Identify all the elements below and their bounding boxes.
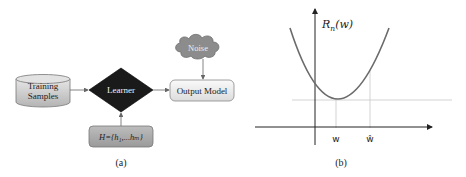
- hypothesis-label: H={h₁,...hₘ}: [98, 132, 143, 142]
- x-tick-w: w: [332, 134, 339, 144]
- training-samples-label-2: Samples: [28, 91, 59, 101]
- x-tick-w-hat: ŵ: [366, 134, 373, 144]
- risk-curve: [290, 28, 389, 99]
- noise-label: Noise: [188, 43, 208, 53]
- training-samples-node: Training Samples: [16, 75, 70, 108]
- figure-b: Rn(w) w ŵ (b): [255, 9, 452, 169]
- output-model-label: Output Model: [177, 86, 228, 96]
- output-model-node: Output Model: [170, 80, 234, 101]
- training-samples-label-1: Training: [28, 81, 59, 91]
- hypothesis-node: H={h₁,...hₘ}: [89, 126, 153, 147]
- learner-node: Learner: [89, 68, 153, 112]
- caption-a: (a): [115, 157, 126, 169]
- figure-a: Training Samples Learner Output Model No…: [16, 34, 234, 169]
- learner-label: Learner: [107, 85, 135, 95]
- caption-b: (b): [335, 157, 347, 169]
- y-axis-label: Rn(w): [321, 18, 353, 33]
- noise-node: Noise: [176, 34, 219, 59]
- figure-canvas: Training Samples Learner Output Model No…: [0, 0, 466, 177]
